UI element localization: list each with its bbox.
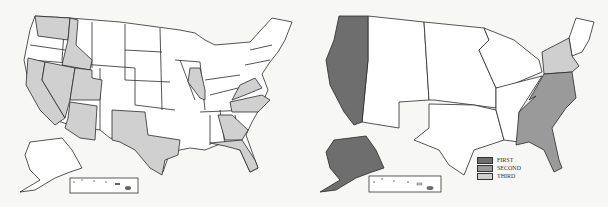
legend-label-first: FIRST: [497, 156, 513, 164]
legend-item-third: THIRD: [477, 172, 521, 180]
right-us-map: [304, 0, 608, 207]
map-figure: FIRST SECOND THIRD: [0, 0, 608, 207]
state-arizona: [65, 102, 97, 140]
hawaii-inset-left: [70, 178, 138, 193]
legend-swatch-first: [477, 157, 493, 164]
legend-swatch-second: [477, 165, 493, 172]
state-florida: [210, 140, 258, 172]
left-us-map: [0, 0, 304, 207]
region-mountain: [362, 16, 429, 128]
region-new-england: [569, 18, 594, 56]
legend-item-second: SECOND: [477, 164, 521, 172]
legend-label-third: THIRD: [497, 172, 515, 180]
region-west-north-central: [424, 22, 496, 108]
legend-label-second: SECOND: [497, 164, 521, 172]
region-pacific: [326, 16, 368, 125]
legend: FIRST SECOND THIRD: [477, 156, 521, 180]
state-washington: [35, 16, 70, 40]
legend-item-first: FIRST: [477, 156, 521, 164]
legend-swatch-third: [477, 173, 493, 180]
